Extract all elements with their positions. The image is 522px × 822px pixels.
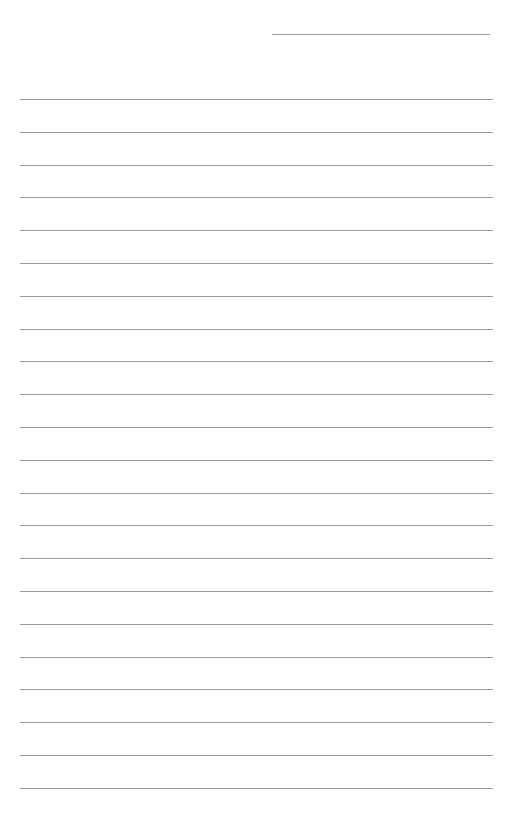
- ruled-line: [20, 165, 493, 166]
- ruled-line: [20, 99, 493, 100]
- header-name-line: [272, 34, 490, 35]
- ruled-line: [20, 361, 493, 362]
- ruled-line: [20, 722, 493, 723]
- ruled-line: [20, 460, 493, 461]
- ruled-line: [20, 788, 493, 789]
- ruled-line: [20, 230, 493, 231]
- ruled-line: [20, 197, 493, 198]
- ruled-line: [20, 132, 493, 133]
- ruled-line: [20, 755, 493, 756]
- ruled-line: [20, 493, 493, 494]
- ruled-line: [20, 329, 493, 330]
- ruled-line: [20, 591, 493, 592]
- ruled-line: [20, 427, 493, 428]
- ruled-line: [20, 394, 493, 395]
- ruled-line: [20, 296, 493, 297]
- ruled-line: [20, 624, 493, 625]
- ruled-line: [20, 689, 493, 690]
- ruled-line: [20, 657, 493, 658]
- ruled-line: [20, 558, 493, 559]
- ruled-line: [20, 263, 493, 264]
- ruled-line: [20, 525, 493, 526]
